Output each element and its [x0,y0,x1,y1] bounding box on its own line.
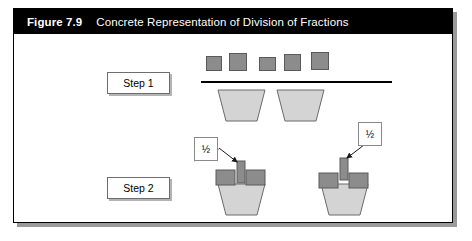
step-1-label-text: Step 1 [123,77,153,89]
fraction-callout-right: ½ [358,122,382,146]
figure-caption: Concrete Representation of Division of F… [96,16,348,28]
group-left-insert-block [237,161,245,183]
group-right-block-right [349,173,368,188]
fraction-callout-left: ½ [194,137,218,161]
figure-body: Step 1 Step 2 ½ ½ [14,34,452,222]
figure-root: Figure 7.9 Concrete Representation of Di… [0,0,472,241]
unit-square-4 [284,54,301,71]
group-right-insert-block [340,158,348,180]
fraction-callout-left-text: ½ [202,144,210,155]
divider-line [201,81,392,83]
group-left-leader-arrow [219,148,237,162]
step-1-trapezoid-1 [218,90,265,121]
group-right-leader-arrow [347,145,364,158]
step-1-trapezoid-2 [277,90,324,121]
group-left-trapezoid [218,184,265,215]
figure-title-bar: Figure 7.9 Concrete Representation of Di… [14,9,452,34]
unit-square-2 [229,53,247,71]
group-left-block-right [246,170,265,185]
step-1-label-box: Step 1 [107,72,170,94]
figure-number-label: Figure 7.9 [27,16,82,28]
unit-square-3 [259,57,276,71]
group-left-block-left [216,170,235,185]
step-2-label-box: Step 2 [107,177,170,199]
group-right-block-left [319,173,338,188]
unit-square-5 [311,52,329,70]
step-2-label-text: Step 2 [123,182,153,194]
fraction-callout-right-text: ½ [366,129,374,140]
group-right-trapezoid [321,184,368,215]
figure-frame: Figure 7.9 Concrete Representation of Di… [13,8,453,223]
unit-square-1 [206,56,222,71]
